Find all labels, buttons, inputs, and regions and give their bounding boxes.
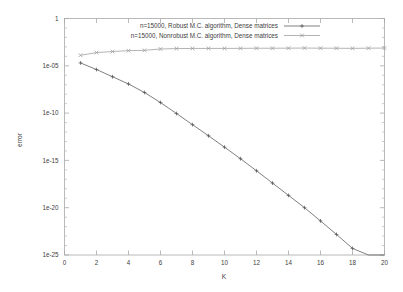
x-tick-label: 12 bbox=[253, 259, 261, 266]
x-tick-label: 10 bbox=[221, 259, 229, 266]
x-tick-label: 18 bbox=[349, 259, 357, 266]
y-tick-label: 1e-05 bbox=[42, 62, 59, 69]
chart-figure: 11e-051e-101e-151e-201e-25 0246810121416… bbox=[0, 0, 403, 292]
y-tick-label: 1e-15 bbox=[42, 157, 59, 164]
y-axis-ticks bbox=[65, 19, 385, 256]
x-tick-label: 8 bbox=[191, 259, 195, 266]
x-tick-label: 2 bbox=[95, 259, 99, 266]
legend-label: n=15000, Nonrobust M.C. algorithm, Dense… bbox=[131, 32, 278, 40]
x-tick-label: 6 bbox=[159, 259, 163, 266]
x-axis-tick-labels: 02468101214161820 bbox=[63, 259, 389, 266]
x-tick-label: 4 bbox=[127, 259, 131, 266]
x-tick-label: 0 bbox=[63, 259, 67, 266]
x-axis-title: K bbox=[222, 273, 227, 280]
legend-entry-1[interactable]: n=15000, Robust M.C. algorithm, Dense ma… bbox=[140, 22, 320, 30]
y-tick-label: 1e-10 bbox=[42, 109, 59, 116]
series-2 bbox=[79, 46, 387, 57]
y-tick-label: 1 bbox=[55, 15, 59, 22]
y-tick-label: 1e-25 bbox=[42, 251, 59, 258]
plot-canvas: 11e-051e-101e-151e-201e-25 0246810121416… bbox=[0, 0, 403, 292]
legend-label: n=15000, Robust M.C. algorithm, Dense ma… bbox=[140, 22, 278, 30]
x-axis-ticks bbox=[65, 19, 385, 256]
y-axis-title: error bbox=[16, 132, 23, 147]
x-tick-label: 16 bbox=[317, 259, 325, 266]
series-layer bbox=[79, 46, 387, 255]
series-1 bbox=[79, 61, 385, 255]
chart-legend: n=15000, Robust M.C. algorithm, Dense ma… bbox=[131, 22, 320, 40]
x-tick-label: 20 bbox=[381, 259, 389, 266]
y-tick-label: 1e-20 bbox=[42, 204, 59, 211]
legend-entry-2[interactable]: n=15000, Nonrobust M.C. algorithm, Dense… bbox=[131, 32, 320, 40]
y-axis-tick-labels: 11e-051e-101e-151e-201e-25 bbox=[42, 15, 59, 258]
x-tick-label: 14 bbox=[285, 259, 293, 266]
plot-frame bbox=[65, 19, 385, 256]
